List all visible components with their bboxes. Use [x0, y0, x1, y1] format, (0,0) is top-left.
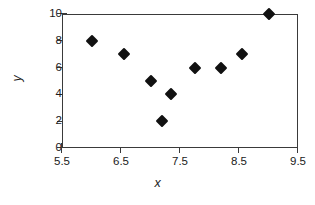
- y-tick-label: 4: [16, 88, 62, 100]
- x-tick-label: 6.5: [101, 156, 141, 168]
- y-tick-label: 8: [16, 35, 62, 47]
- x-tick-label: 8.5: [219, 156, 259, 168]
- plot-area: [62, 14, 298, 148]
- y-tick-label: 0: [16, 142, 62, 154]
- y-tick-label: 10: [16, 8, 62, 20]
- x-axis-title: x: [0, 177, 315, 190]
- x-tick-label: 5.5: [42, 156, 82, 168]
- y-tick-label: 6: [16, 62, 62, 74]
- x-tick-label: 9.5: [278, 156, 315, 168]
- x-tick-label: 7.5: [160, 156, 200, 168]
- y-tick-label: 2: [16, 115, 62, 127]
- y-axis-title: y: [11, 75, 24, 81]
- scatter-chart: 0246810 5.56.57.58.59.5 y x: [0, 0, 315, 205]
